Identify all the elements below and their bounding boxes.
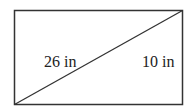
diagonal-label: 26 in	[44, 53, 76, 70]
height-label: 10 in	[142, 53, 174, 70]
rectangle-diagram: 26 in 10 in	[0, 0, 193, 110]
